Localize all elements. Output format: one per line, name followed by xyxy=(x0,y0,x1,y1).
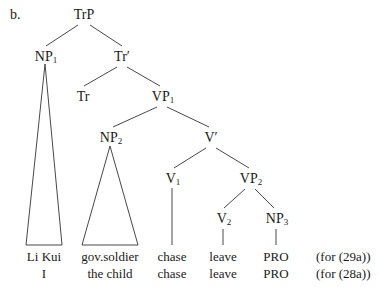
note-row1: (for (29a)) xyxy=(316,249,371,264)
node-np3: NP3 xyxy=(266,211,288,227)
node-v2: V2 xyxy=(217,211,232,227)
leaf-v1-row1: chase xyxy=(158,249,187,264)
leaf-np2-row2: the child xyxy=(87,266,132,281)
leaf-v2-row2: leave xyxy=(209,266,236,281)
node-vp1: VP1 xyxy=(152,89,174,105)
leaf-np1-row1: Li Kui xyxy=(27,249,61,264)
node-trp: TrP xyxy=(74,7,95,23)
node-v1: V1 xyxy=(166,171,181,187)
note-row2: (for (28a)) xyxy=(316,266,371,281)
tree-branches xyxy=(0,0,379,287)
leaf-np2-row1: gov.soldier xyxy=(81,249,138,264)
leaf-np1-row2: I xyxy=(42,266,46,281)
leaf-v2-row1: leave xyxy=(209,249,236,264)
node-v-bar: V′ xyxy=(204,130,217,146)
node-tr: Tr xyxy=(77,89,90,105)
leaf-np3-row1: PRO xyxy=(263,249,288,264)
node-np2: NP2 xyxy=(100,130,122,146)
node-vp2: VP2 xyxy=(240,171,262,187)
node-np1: NP1 xyxy=(35,49,57,65)
leaf-v1-row2: chase xyxy=(158,266,187,281)
leaf-np3-row2: PRO xyxy=(263,266,288,281)
node-tr-bar: Tr′ xyxy=(114,49,130,65)
